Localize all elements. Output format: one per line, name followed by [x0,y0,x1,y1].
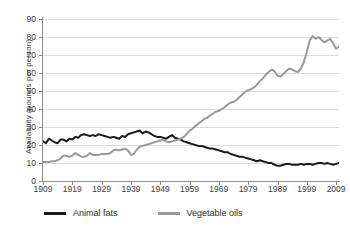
x-tick-mark [190,182,191,185]
y-tick-label: 60 [14,69,36,77]
y-tick-mark [39,73,42,74]
y-tick-mark [39,145,42,146]
legend-label: Vegetable oils [187,208,243,218]
legend-swatch-icon [158,212,180,215]
legend-item[interactable]: Animal fats [44,208,118,218]
y-tick-label: 10 [14,159,36,167]
y-tick-label: 90 [14,15,36,23]
y-tick-mark [39,109,42,110]
x-tick-mark [219,182,220,185]
y-tick-label: 20 [14,141,36,149]
x-tick-mark [43,182,44,185]
y-tick-mark [39,163,42,164]
line-chart: Availability (pounds per person) 0102030… [0,0,350,229]
x-tick-mark [278,182,279,185]
y-tick-label: 40 [14,105,36,113]
y-tick-mark [39,181,42,182]
y-tick-mark [39,91,42,92]
series-layer [43,19,339,181]
legend-label: Animal fats [73,208,118,218]
y-tick-mark [39,19,42,20]
y-tick-label: 50 [14,87,36,95]
x-tick-mark [307,182,308,185]
series-line-animal-fats [43,131,339,166]
y-tick-mark [39,55,42,56]
y-tick-label: 80 [14,33,36,41]
legend-swatch-icon [44,212,66,215]
x-tick-mark [160,182,161,185]
x-tick-mark [336,182,337,185]
x-tick-mark [248,182,249,185]
y-tick-label: 70 [14,51,36,59]
x-axis-line [43,181,340,182]
legend-item[interactable]: Vegetable oils [158,208,243,218]
y-tick-mark [39,37,42,38]
x-tick-mark [72,182,73,185]
x-tick-label: 2009 [319,185,350,194]
y-tick-label: 0 [14,177,36,185]
x-tick-mark [102,182,103,185]
chart-legend: Animal fatsVegetable oils [44,208,283,218]
y-tick-mark [39,127,42,128]
x-tick-mark [131,182,132,185]
y-tick-label: 30 [14,123,36,131]
